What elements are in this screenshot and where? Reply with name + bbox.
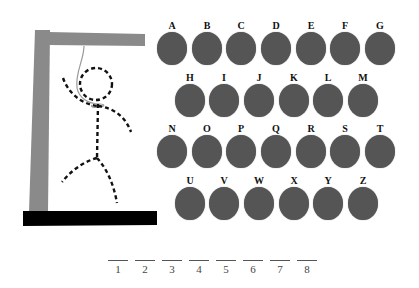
figure-left-leg — [62, 158, 97, 182]
letter-button-w[interactable]: W — [244, 175, 274, 221]
letter-disc — [192, 32, 222, 65]
word-blank-2: 2 — [135, 260, 155, 280]
letter-button-h[interactable]: H — [175, 72, 205, 118]
blank-underline — [243, 260, 263, 261]
letter-label: V — [209, 175, 239, 186]
letter-disc — [313, 84, 343, 117]
gallows-drawing — [0, 0, 170, 240]
blank-number: 5 — [216, 263, 236, 275]
letter-button-o[interactable]: O — [192, 123, 222, 169]
letter-label: H — [175, 72, 205, 83]
figure-right-arm — [98, 106, 131, 132]
blank-number: 8 — [297, 263, 317, 275]
letter-button-u[interactable]: U — [175, 175, 205, 221]
figure-head — [80, 68, 112, 100]
letter-disc — [279, 187, 309, 220]
word-blank-4: 4 — [189, 260, 209, 280]
letter-label: I — [209, 72, 239, 83]
letter-label: F — [330, 20, 360, 31]
letter-button-f[interactable]: F — [330, 20, 360, 66]
letter-label: E — [296, 20, 326, 31]
letter-button-m[interactable]: M — [348, 72, 378, 118]
letter-button-e[interactable]: E — [296, 20, 326, 66]
letter-button-n[interactable]: N — [157, 123, 187, 169]
gallows-post — [29, 30, 50, 212]
letter-label: G — [365, 20, 395, 31]
letter-disc — [330, 32, 360, 65]
letter-disc — [279, 84, 309, 117]
blank-number: 1 — [108, 263, 128, 275]
letter-button-c[interactable]: C — [226, 20, 256, 66]
letter-button-v[interactable]: V — [209, 175, 239, 221]
letter-button-z[interactable]: Z — [348, 175, 378, 221]
blank-underline — [216, 260, 236, 261]
letter-label: Y — [313, 175, 343, 186]
letter-label: D — [261, 20, 291, 31]
blank-underline — [270, 260, 290, 261]
letter-label: W — [244, 175, 274, 186]
letter-button-q[interactable]: Q — [261, 123, 291, 169]
letter-button-p[interactable]: P — [226, 123, 256, 169]
letter-button-b[interactable]: B — [192, 20, 222, 66]
letter-label: B — [192, 20, 222, 31]
letter-button-l[interactable]: L — [313, 72, 343, 118]
letter-disc — [261, 135, 291, 168]
gallows-beam — [48, 32, 145, 46]
letter-label: R — [296, 123, 326, 134]
blank-underline — [297, 260, 317, 261]
letter-button-x[interactable]: X — [279, 175, 309, 221]
letter-label: A — [157, 20, 187, 31]
gallows-base — [23, 211, 157, 226]
letter-label: K — [279, 72, 309, 83]
word-blank-5: 5 — [216, 260, 236, 280]
letter-disc — [348, 187, 378, 220]
blank-number: 4 — [189, 263, 209, 275]
letter-label: T — [365, 123, 395, 134]
letter-button-k[interactable]: K — [279, 72, 309, 118]
letter-label: C — [226, 20, 256, 31]
letter-disc — [244, 84, 274, 117]
blank-underline — [108, 260, 128, 261]
letter-disc — [157, 135, 187, 168]
letter-button-g[interactable]: G — [365, 20, 395, 66]
word-blank-1: 1 — [108, 260, 128, 280]
blank-number: 7 — [270, 263, 290, 275]
word-blank-6: 6 — [243, 260, 263, 280]
letter-disc — [365, 32, 395, 65]
blank-underline — [189, 260, 209, 261]
letter-label: S — [330, 123, 360, 134]
letter-label: N — [157, 123, 187, 134]
letter-disc — [226, 32, 256, 65]
letter-button-t[interactable]: T — [365, 123, 395, 169]
letter-disc — [175, 187, 205, 220]
letter-button-s[interactable]: S — [330, 123, 360, 169]
letter-disc — [244, 187, 274, 220]
letter-disc — [313, 187, 343, 220]
letter-disc — [348, 84, 378, 117]
letter-button-d[interactable]: D — [261, 20, 291, 66]
letter-label: U — [175, 175, 205, 186]
letter-disc — [296, 135, 326, 168]
letter-label: X — [279, 175, 309, 186]
letter-disc — [157, 32, 187, 65]
letter-button-j[interactable]: J — [244, 72, 274, 118]
blank-number: 6 — [243, 263, 263, 275]
word-blank-7: 7 — [270, 260, 290, 280]
letter-button-i[interactable]: I — [209, 72, 239, 118]
letter-label: P — [226, 123, 256, 134]
letter-label: Q — [261, 123, 291, 134]
letter-disc — [330, 135, 360, 168]
letter-label: Z — [348, 175, 378, 186]
letter-disc — [209, 187, 239, 220]
word-blank-8: 8 — [297, 260, 317, 280]
word-blank-3: 3 — [162, 260, 182, 280]
letter-disc — [226, 135, 256, 168]
letter-button-y[interactable]: Y — [313, 175, 343, 221]
letter-button-a[interactable]: A — [157, 20, 187, 66]
letter-button-r[interactable]: R — [296, 123, 326, 169]
letter-label: O — [192, 123, 222, 134]
blank-underline — [162, 260, 182, 261]
figure-right-leg — [97, 158, 117, 203]
blank-number: 3 — [162, 263, 182, 275]
letter-label: L — [313, 72, 343, 83]
